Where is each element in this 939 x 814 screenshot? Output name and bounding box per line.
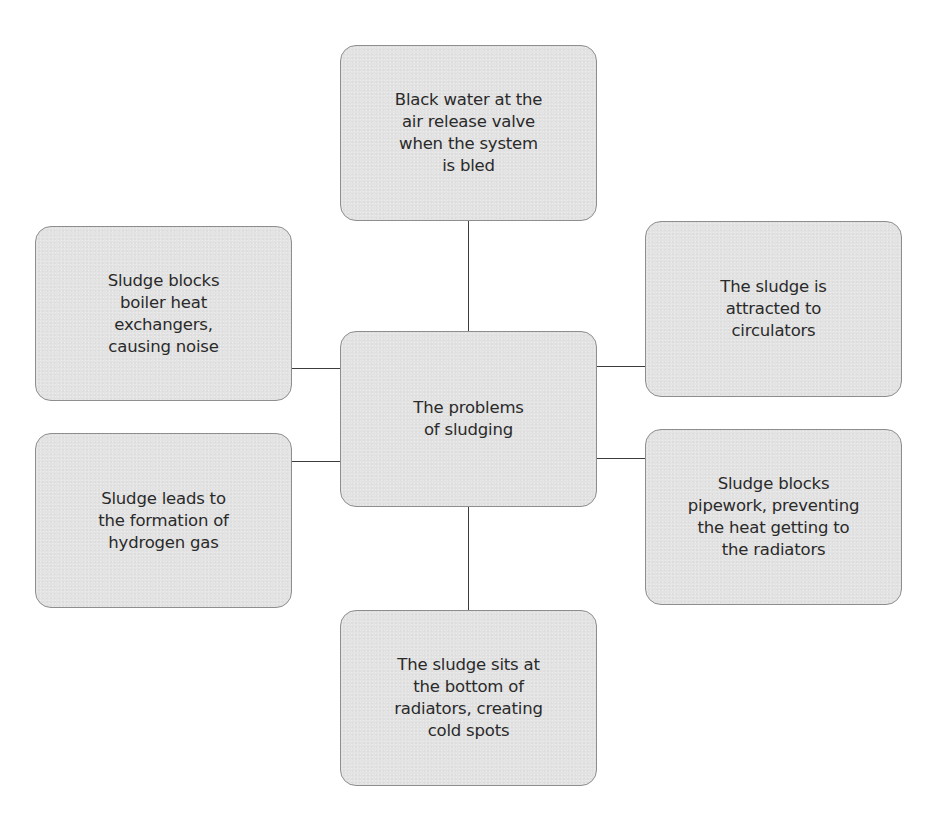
node-left-bottom: Sludge leads to the formation of hydroge… (35, 433, 292, 608)
node-right-top-label: The sludge is attracted to circulators (702, 276, 845, 342)
center-node: The problems of sludging (340, 331, 597, 507)
connector-right-top (597, 366, 645, 368)
connector-bottom (468, 507, 470, 610)
node-left-top: Sludge blocks boiler heat exchangers, ca… (35, 226, 292, 401)
node-bottom-label: The sludge sits at the bottom of radiato… (376, 654, 560, 742)
node-right-bottom-label: Sludge blocks pipework, preventing the h… (670, 473, 878, 561)
node-right-top: The sludge is attracted to circulators (645, 221, 902, 397)
node-left-bottom-label: Sludge leads to the formation of hydroge… (80, 488, 246, 554)
connector-left-bottom (292, 461, 340, 463)
node-left-top-label: Sludge blocks boiler heat exchangers, ca… (90, 270, 238, 358)
sludging-problems-diagram: The problems of sludging Black water at … (0, 0, 939, 814)
node-right-bottom: Sludge blocks pipework, preventing the h… (645, 429, 902, 605)
connector-top (468, 221, 470, 331)
connector-right-bottom (597, 458, 645, 460)
node-top-label: Black water at the air release valve whe… (377, 89, 560, 177)
center-node-label: The problems of sludging (395, 397, 541, 441)
node-top: Black water at the air release valve whe… (340, 45, 597, 221)
node-bottom: The sludge sits at the bottom of radiato… (340, 610, 597, 786)
connector-left-top (292, 368, 340, 370)
